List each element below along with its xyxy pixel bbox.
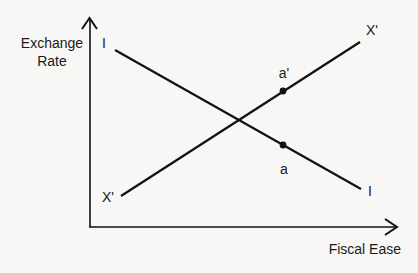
diagram-canvas: Exchange Rate Fiscal Ease I I X' X' a' a xyxy=(0,0,418,273)
curve-x-prime-start-label: X' xyxy=(102,189,114,205)
point-a-prime xyxy=(280,88,287,95)
point-a xyxy=(280,142,287,149)
curve-x-prime-end-label: X' xyxy=(366,22,378,38)
point-a-label: a xyxy=(280,161,288,177)
point-a-prime-label: a' xyxy=(279,65,289,81)
curve-i-end-label: I xyxy=(368,183,372,199)
y-axis-label-line1: Exchange xyxy=(21,35,83,51)
y-axis-label-line2: Rate xyxy=(37,53,67,69)
curve-i-start-label: I xyxy=(102,35,106,51)
curve-x-prime xyxy=(121,42,360,196)
x-axis-label: Fiscal Ease xyxy=(329,241,402,257)
diagram-svg: Exchange Rate Fiscal Ease I I X' X' a' a xyxy=(0,0,418,273)
